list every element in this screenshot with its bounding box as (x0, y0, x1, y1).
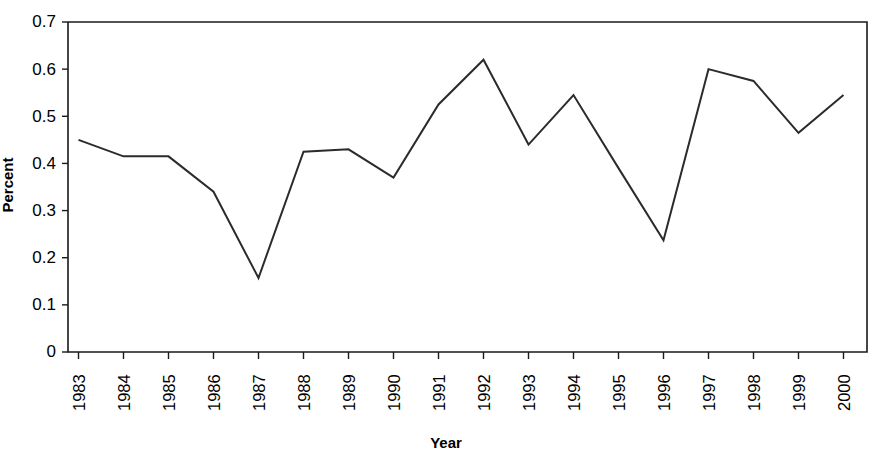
x-tick-label: 1999 (790, 374, 808, 411)
y-axis-tick-labels: 0.70.60.50.40.30.20.10 (32, 12, 56, 361)
y-tick-label: 0.6 (32, 60, 56, 79)
x-tick-label: 1986 (205, 374, 223, 411)
x-axis-title: Year (430, 434, 462, 451)
x-tick-label: 1990 (385, 374, 403, 411)
x-tick-label: 1995 (610, 374, 628, 411)
x-tick-label: 2000 (835, 374, 853, 411)
y-tick-label: 0 (47, 342, 56, 361)
y-tick-label: 0.2 (32, 248, 56, 267)
y-tick-label: 0.3 (32, 201, 56, 220)
y-tick-label: 0.7 (32, 12, 56, 31)
x-tick-label: 1991 (430, 374, 448, 411)
x-tick-label: 1989 (340, 374, 358, 411)
x-tick-label: 1984 (115, 374, 133, 411)
data-series-line (79, 60, 844, 278)
y-axis-title: Percent (0, 157, 16, 212)
x-tick-label: 1993 (520, 374, 538, 411)
plot-border (68, 22, 867, 352)
y-tick-label: 0.5 (32, 107, 56, 126)
plot-frame (68, 22, 867, 352)
x-tick-label: 1988 (295, 374, 313, 411)
x-axis-tick-labels: 1983198419851986198719881989199019911992… (70, 374, 853, 411)
line-chart: 0.70.60.50.40.30.20.10 19831984198519861… (0, 0, 877, 461)
y-axis-ticks (62, 22, 68, 352)
x-tick-label: 1998 (745, 374, 763, 411)
y-tick-label: 0.1 (32, 295, 56, 314)
x-tick-label: 1996 (655, 374, 673, 411)
x-tick-label: 1994 (565, 374, 583, 411)
x-tick-label: 1983 (70, 374, 88, 411)
x-axis-ticks (79, 352, 844, 359)
x-tick-label: 1987 (250, 374, 268, 411)
x-tick-label: 1992 (475, 374, 493, 411)
y-tick-label: 0.4 (32, 154, 56, 173)
chart-canvas: 0.70.60.50.40.30.20.10 19831984198519861… (0, 0, 877, 461)
x-tick-label: 1985 (160, 374, 178, 411)
x-tick-label: 1997 (700, 374, 718, 411)
